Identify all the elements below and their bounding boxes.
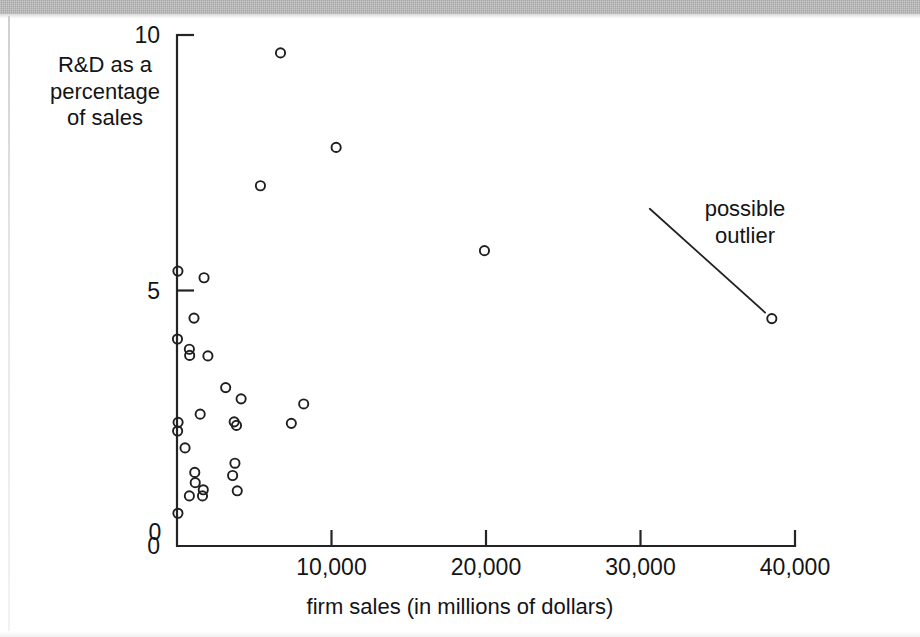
scatter-point — [287, 419, 296, 428]
scatter-point — [185, 351, 194, 360]
outlier-annotation-line-2: outlier — [660, 223, 830, 250]
scatter-point — [180, 443, 189, 452]
x-axis-tick-label: 40,000 — [760, 556, 830, 579]
scatter-point — [228, 471, 237, 480]
axis-lines — [177, 35, 795, 546]
y-axis-title-line-2: percentage — [30, 79, 180, 106]
outlier-annotation-label: possible outlier — [660, 196, 830, 250]
x-axis-tick-label: 30,000 — [605, 556, 675, 579]
y-axis-title-line-3: of sales — [30, 105, 180, 132]
scatter-point — [767, 314, 776, 323]
scanned-page-canvas: R&D as a percentage of sales firm sales … — [0, 0, 920, 637]
y-axis-tick-label: 0 — [120, 535, 160, 558]
x-axis-ticks — [332, 530, 796, 546]
scatter-point — [185, 491, 194, 500]
y-axis-title-line-1: R&D as a — [30, 52, 180, 79]
scatter-point — [256, 181, 265, 190]
scatter-point — [233, 486, 242, 495]
scatter-point — [190, 468, 199, 477]
scatter-point — [196, 410, 205, 419]
scatter-point — [189, 313, 198, 322]
x-axis-tick-label: 20,000 — [451, 556, 521, 579]
scatter-point — [199, 273, 208, 282]
scatter-point — [480, 246, 489, 255]
scatter-point — [237, 394, 246, 403]
axes-group — [177, 35, 795, 546]
scatter-point — [203, 351, 212, 360]
scatter-plot-figure: R&D as a percentage of sales firm sales … — [0, 0, 920, 637]
x-axis-title: firm sales (in millions of dollars) — [0, 594, 920, 620]
scatter-point — [299, 399, 308, 408]
data-points-group — [173, 48, 777, 518]
scatter-point — [276, 48, 285, 57]
y-axis-tick-label: 10 — [120, 24, 160, 47]
scatter-point — [191, 478, 200, 487]
x-axis-tick-label: 10,000 — [296, 556, 366, 579]
y-axis-title: R&D as a percentage of sales — [30, 52, 180, 132]
outlier-annotation-line-1: possible — [660, 196, 830, 223]
scatter-point — [230, 459, 239, 468]
y-axis-tick-label: 5 — [120, 279, 160, 302]
scatter-point — [332, 143, 341, 152]
scatter-point — [198, 491, 207, 500]
scatter-point — [221, 383, 230, 392]
